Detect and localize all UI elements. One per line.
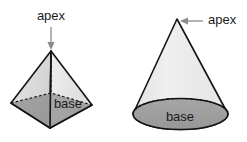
cone-apex-leader: [180, 17, 203, 24]
pyramid-apex-label: apex: [37, 8, 66, 23]
cone-base-label: base: [166, 109, 194, 124]
diagram-canvas: apex base apex base: [0, 0, 247, 142]
cone-apex-label: apex: [208, 12, 237, 27]
pyramid-figure: apex base: [11, 8, 92, 128]
cone-figure: apex base: [133, 12, 237, 129]
geometry-figure: apex base apex base: [0, 0, 247, 142]
pyramid-base-label: base: [54, 96, 82, 111]
pyramid-front-edge: [50, 51, 51, 128]
pyramid-apex-leader: [47, 27, 54, 50]
